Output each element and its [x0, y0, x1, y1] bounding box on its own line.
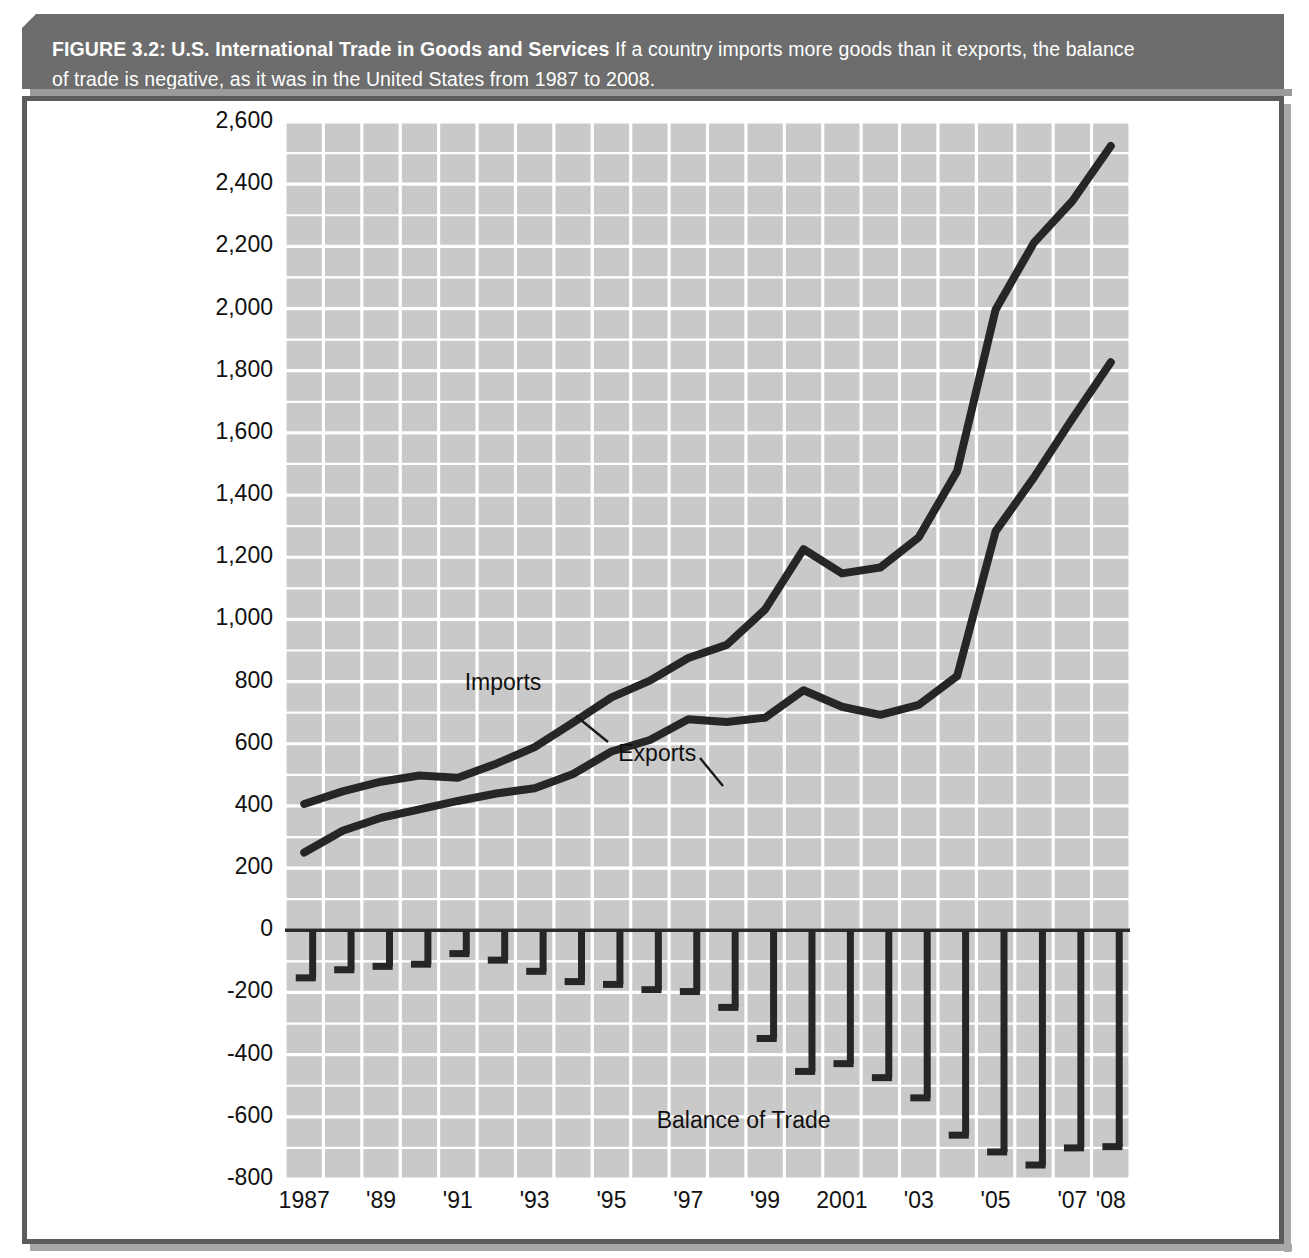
annotation-imports: Imports	[465, 669, 542, 696]
y-axis-tick-label: 800	[185, 667, 273, 694]
imports-leader-line	[576, 716, 608, 742]
plot-wrapper: 2,6002,4002,2002,0001,8001,6001,4001,200…	[0, 0, 1309, 1258]
y-axis-tick-label: -600	[185, 1102, 273, 1129]
data-series-layer	[285, 122, 1130, 1179]
y-axis-tick-label: 1,600	[185, 418, 273, 445]
y-axis-tick-label: 2,400	[185, 169, 273, 196]
exports-leader-line	[700, 758, 723, 786]
plot-area	[285, 122, 1130, 1179]
y-axis-tick-label: 1,000	[185, 604, 273, 631]
figure-container: FIGURE 3.2: U.S. International Trade in …	[0, 0, 1309, 1258]
y-axis-tick-label: 1,400	[185, 480, 273, 507]
y-axis-tick-label: 2,000	[185, 294, 273, 321]
line-imports	[304, 146, 1111, 804]
y-axis-tick-label: 600	[185, 729, 273, 756]
y-axis-tick-label: 1,800	[185, 356, 273, 383]
annotation-exports: Exports	[618, 740, 696, 767]
y-axis-tick-label: -400	[185, 1040, 273, 1067]
x-axis-tick-label: '08	[1066, 1187, 1156, 1214]
y-axis-tick-label: -200	[185, 977, 273, 1004]
annotation-balance-of-trade: Balance of Trade	[657, 1107, 831, 1134]
y-axis-tick-label: 2,600	[185, 107, 273, 134]
y-axis-tick-label: 1,200	[185, 542, 273, 569]
y-axis-tick-label: 2,200	[185, 231, 273, 258]
y-axis-tick-label: 400	[185, 791, 273, 818]
y-axis-tick-label: 0	[185, 915, 273, 942]
y-axis-tick-label: 200	[185, 853, 273, 880]
